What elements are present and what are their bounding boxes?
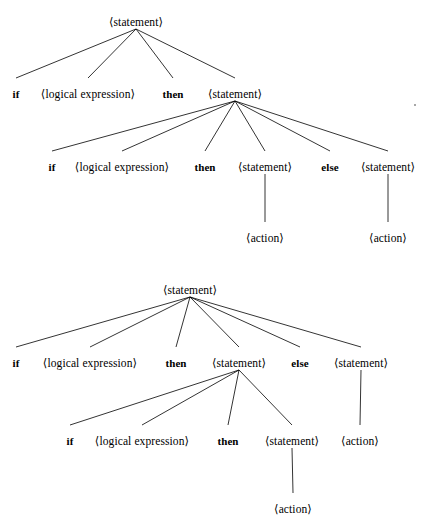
tree-node-t2-else: else: [291, 357, 309, 369]
tree-node-t2-then: then: [165, 357, 186, 369]
tree-edge: [360, 370, 361, 425]
tree-node-t1-action1: ⟨action⟩: [246, 232, 284, 244]
tree-edge: [16, 29, 136, 78]
tree-edge: [70, 370, 239, 425]
tree-edge: [190, 297, 361, 347]
tree-edge: [142, 370, 239, 425]
tree-edge: [228, 370, 239, 425]
tree-node-t2-if2: if: [67, 435, 74, 447]
tree-node-t2-stmt: ⟨statement⟩: [212, 357, 266, 369]
tree-node-t1-action2: ⟨action⟩: [369, 232, 407, 244]
tree-node-t1-stmt2: ⟨statement⟩: [238, 161, 292, 173]
tree-node-t1-if2: if: [49, 161, 56, 173]
tree-node-t1-root: ⟨statement⟩: [109, 16, 163, 28]
tree-node-t2-then2: then: [217, 435, 238, 447]
tree-edge: [292, 448, 293, 493]
tree-node-t1-logexp: ⟨logical expression⟩: [41, 88, 135, 100]
tree-edge: [239, 370, 292, 425]
tree-edge: [235, 101, 265, 151]
parse-tree-figure: ⟨statement⟩if⟨logical expression⟩then⟨st…: [0, 0, 425, 517]
tree-edge: [235, 101, 388, 151]
tree-edge: [122, 101, 235, 151]
tree-edge: [235, 101, 330, 151]
tree-node-t2-if: if: [13, 357, 20, 369]
tree-node-t2-stmt2: ⟨statement⟩: [265, 435, 319, 447]
tree-node-t2-stmt3: ⟨statement⟩: [334, 357, 388, 369]
tree-edge: [88, 29, 136, 78]
tree-node-t1-else: else: [321, 161, 339, 173]
tree-node-t1-then2: then: [194, 161, 215, 173]
tree-node-t1-then: then: [162, 88, 183, 100]
tree-node-t1-stmt: ⟨statement⟩: [208, 88, 262, 100]
scan-speck: [414, 104, 416, 106]
tree-edge: [52, 101, 235, 151]
tree-node-t2-logexp2: ⟨logical expression⟩: [95, 435, 189, 447]
tree-node-t1-stmt3: ⟨statement⟩: [361, 161, 415, 173]
tree-edge: [205, 101, 235, 151]
tree-node-t1-logexp2: ⟨logical expression⟩: [75, 161, 169, 173]
tree-edge: [136, 29, 173, 78]
tree-edge: [136, 29, 235, 78]
tree-node-t1-if: if: [13, 88, 20, 100]
tree-node-t2-root: ⟨statement⟩: [163, 284, 217, 296]
tree-node-t2-action1: ⟨action⟩: [341, 435, 379, 447]
tree-node-t2-action2: ⟨action⟩: [274, 503, 312, 515]
tree-edge: [16, 297, 190, 347]
tree-edge: [190, 297, 300, 347]
tree-edge: [176, 297, 190, 347]
tree-edge: [190, 297, 239, 347]
tree-edge: [90, 297, 190, 347]
tree-node-t2-logexp: ⟨logical expression⟩: [43, 357, 137, 369]
